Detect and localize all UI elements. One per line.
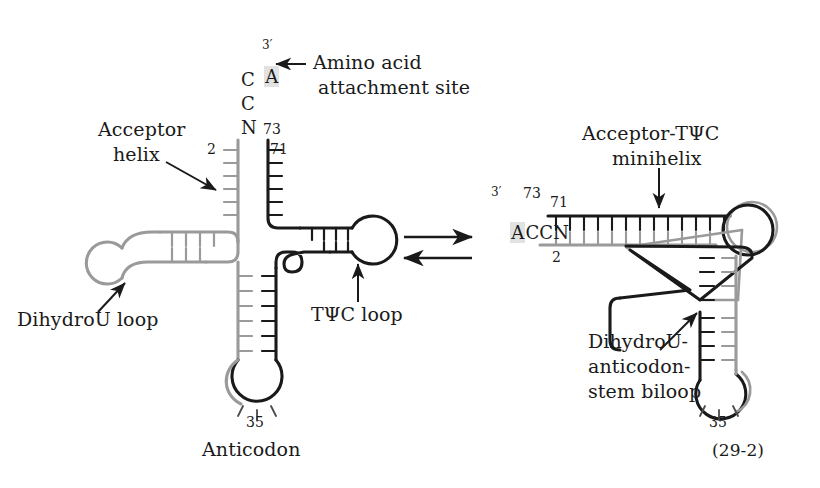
tpsic-base-pairs: [312, 228, 348, 252]
anticodon-label: Anticodon: [202, 438, 301, 460]
minihelix-base-pairs-top: [556, 216, 724, 230]
dihydrou-stem: [122, 232, 238, 278]
figure-reference: (29-2): [712, 441, 764, 461]
diagram-canvas: [0, 0, 820, 488]
acceptor-base-c2-left: C: [241, 94, 255, 115]
variable-loop-hook: [276, 252, 330, 272]
acceptor-stem-base-pairs: [224, 150, 282, 215]
equilibrium-double-arrow: [404, 237, 472, 258]
acceptor-base-n-left: N: [241, 118, 257, 139]
tpsic-stem: [300, 228, 352, 252]
dihydrou-base-pairs: [172, 232, 214, 262]
position-2-right: 2: [552, 249, 561, 265]
anticodon-stem-right-base-pairs: [700, 258, 736, 360]
biloop-label-line1: DihydroU-: [588, 330, 688, 352]
dihydrou-loop-circle: [86, 242, 122, 284]
anticodon-base-pairs: [238, 276, 276, 351]
tpsic-loop-label: TΨC loop: [311, 303, 403, 325]
anticodon-position-label-right: 35: [709, 414, 727, 430]
minihelix-label-line1: Acceptor-TΨC: [582, 122, 719, 144]
prime-label-left: 3′: [262, 39, 273, 53]
position-2-left: 2: [207, 141, 216, 157]
minihelix-label-line2: minihelix: [612, 147, 702, 169]
position-73-right: 73: [523, 185, 541, 201]
acceptor-helix-label-line1: Acceptor: [98, 118, 185, 140]
tpsic-loop-circle: [352, 216, 397, 264]
pointer-acceptor-helix: [166, 162, 216, 190]
anticodon-loop-circle: [226, 360, 282, 404]
position-71-left: 71: [270, 141, 288, 157]
position-73-left: 73: [263, 121, 281, 137]
dihydrou-loop-label: DihydroU loop: [17, 308, 158, 330]
anticodon-position-label-left: 35: [246, 414, 264, 430]
acceptor-base-c1-left: C: [241, 70, 255, 91]
anticodon-loop-right: [696, 370, 750, 419]
position-71-right: 71: [550, 194, 568, 210]
amino-acid-site-label-line1: Amino acid: [313, 51, 422, 73]
acceptor-helix-label-line2: helix: [113, 143, 160, 165]
biloop-label-line2: anticodon-: [588, 355, 691, 377]
biloop-label-line3: stem biloop: [588, 380, 701, 402]
prime-label-right: 3′: [491, 186, 502, 200]
trna-structure-figure: A 3′ C C N 73 71 2 Amino acid attachment…: [0, 0, 820, 488]
amino-acid-site-label-line2: attachment site: [318, 76, 470, 98]
